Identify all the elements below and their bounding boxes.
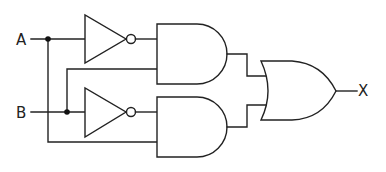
input-label-a: A: [16, 31, 27, 49]
inversion-bubble-icon: [127, 35, 136, 44]
wire-and-top-to-or: [227, 54, 266, 76]
and-gate-top: [157, 24, 227, 84]
input-label-b: B: [16, 104, 26, 122]
junction-a: [45, 36, 51, 42]
or-gate: [261, 61, 336, 120]
wire-and-bottom-to-or: [227, 105, 266, 127]
not-gate-b: [85, 88, 157, 137]
and-gate-bottom: [157, 97, 227, 157]
logic-circuit-diagram: A B X: [0, 0, 386, 172]
junction-b: [64, 109, 70, 115]
inversion-bubble-icon: [127, 108, 136, 117]
not-gate-a: [85, 15, 157, 63]
output-label-x: X: [358, 82, 368, 100]
